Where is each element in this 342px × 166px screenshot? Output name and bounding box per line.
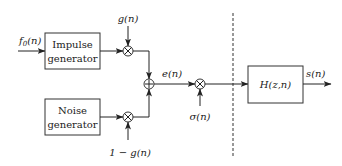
svg-text:H(z,n): H(z,n) — [259, 79, 292, 90]
svg-text:generator: generator — [47, 119, 97, 130]
impulse-generator-block: Impulse generator — [45, 33, 100, 69]
amplitude-label: σ(n) — [189, 111, 210, 122]
svg-text:Noise: Noise — [58, 105, 87, 116]
adder-icon — [144, 79, 154, 89]
top-to-adder-wire — [133, 51, 149, 79]
gain-bottom-label: 1 − g(n) — [109, 147, 151, 158]
svg-text:generator: generator — [47, 53, 97, 64]
source-filter-diagram: f0(n) Impulse generator Noise generator … — [0, 0, 342, 166]
input-label: f0(n) — [18, 35, 42, 48]
svg-text:Impulse: Impulse — [52, 39, 93, 50]
bottom-to-adder-wire — [133, 89, 149, 117]
noise-generator-block: Noise generator — [45, 99, 100, 135]
output-label: s(n) — [306, 68, 325, 79]
multiplier-top-icon — [123, 46, 133, 56]
multiplier-bottom-icon — [123, 112, 133, 122]
excitation-label: e(n) — [162, 68, 182, 79]
filter-block: H(z,n) — [248, 66, 303, 103]
multiplier-gain-icon — [195, 79, 205, 89]
gain-top-label: g(n) — [118, 13, 139, 24]
